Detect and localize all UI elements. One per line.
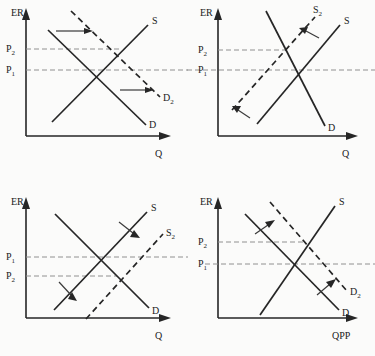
price-label-p1-top-right: P1 — [198, 64, 208, 78]
panel-top-right: ER Q P2 P1 S D S2 — [187, 0, 375, 178]
price-label-p1-bottom-left: P1 — [6, 251, 16, 265]
curve-label-d2-top-left: D2 — [163, 92, 174, 106]
curve-label-d-bottom-left: D — [152, 305, 159, 316]
axes-bottom-right — [214, 197, 358, 322]
price-label-p2-top-left: P2 — [6, 43, 16, 57]
panel-top-left: ER Q P2 P1 S D D2 — [0, 0, 188, 178]
price-label-p1-top-left: P1 — [6, 64, 16, 78]
axis-label-x-top-left: Q — [155, 148, 163, 159]
curve-demand-shifted-top-left — [71, 11, 160, 97]
curve-supply-top-right — [257, 25, 340, 124]
curve-label-d-top-right: D — [328, 122, 335, 133]
axis-label-y-bottom-right: ER — [200, 196, 213, 207]
axis-label-y-top-left: ER — [11, 7, 24, 18]
curve-label-s-bottom-left: S — [151, 202, 157, 213]
shift-arrow-lower-bottom-right — [317, 279, 336, 295]
panel-bottom-left: ER Q P1 P2 S D S2 — [0, 178, 188, 356]
axis-label-x-top-right: Q — [342, 148, 350, 159]
axis-label-x-bottom-right: QPP — [332, 330, 351, 341]
curve-label-s2-top-right: S2 — [313, 4, 323, 18]
curve-label-d2-bottom-right: D2 — [350, 286, 361, 300]
curve-label-s-top-right: S — [344, 15, 350, 26]
shift-arrow-upper-top-left — [56, 28, 93, 34]
price-label-p1-bottom-right: P1 — [198, 258, 208, 272]
axis-label-y-top-right: ER — [200, 7, 213, 18]
axes-top-right — [214, 8, 358, 140]
curve-label-s-bottom-right: S — [339, 196, 345, 207]
price-label-p2-bottom-right: P2 — [198, 236, 208, 250]
shift-arrow-upper-bottom-left — [119, 222, 140, 238]
curve-demand-top-right — [266, 11, 325, 126]
shift-arrow-lower-bottom-left — [59, 282, 77, 301]
curve-label-d-top-left: D — [149, 119, 156, 130]
price-label-p2-top-right: P2 — [198, 44, 208, 58]
price-guides-top-right — [187, 50, 375, 70]
figure-container: ER Q P2 P1 S D D2 — [0, 0, 375, 356]
shift-arrow-lower-top-left — [120, 87, 154, 93]
axes-bottom-left — [22, 197, 171, 322]
curve-label-d-bottom-right: D — [342, 307, 349, 318]
price-label-p2-bottom-left: P2 — [6, 270, 16, 284]
shift-arrow-lower-top-right — [232, 106, 250, 118]
curve-label-s2-bottom-left: S2 — [166, 227, 176, 241]
axis-label-y-bottom-left: ER — [11, 196, 24, 207]
panel-bottom-right: ER QPP P2 P1 S D D2 — [187, 178, 375, 356]
axis-label-x-bottom-left: Q — [155, 330, 163, 341]
curve-label-s-top-left: S — [152, 15, 158, 26]
